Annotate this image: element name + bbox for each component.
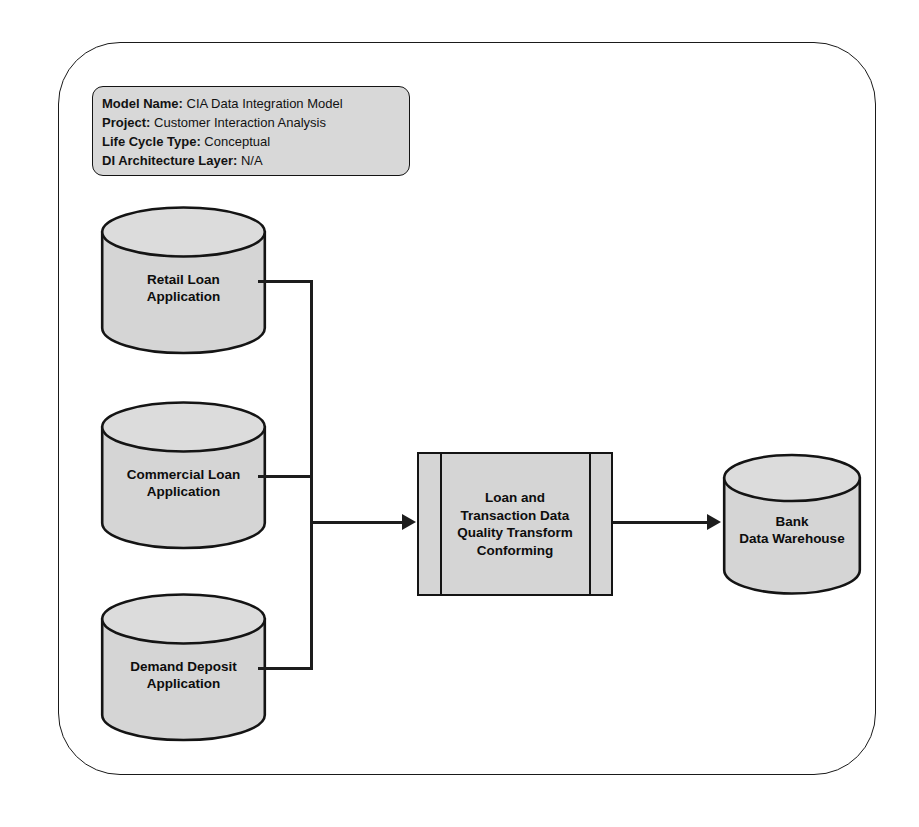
- datastore-commercial-loan-application[interactable]: Commercial Loan Application: [100, 400, 267, 550]
- connector-retail-loan-stub: [258, 280, 313, 283]
- connector-bus-to-transform: [310, 521, 404, 524]
- metadata-row-project: Project: Customer Interaction Analysis: [102, 113, 409, 132]
- metadata-row-di-architecture-layer: DI Architecture Layer: N/A: [102, 151, 409, 170]
- process-label-line2: Transaction Data: [443, 507, 587, 525]
- metadata-value-model-name: CIA Data Integration Model: [187, 96, 343, 111]
- metadata-row-life-cycle-type: Life Cycle Type: Conceptual: [102, 132, 409, 151]
- process-divider-right: [589, 454, 591, 594]
- metadata-row-model-name: Model Name: CIA Data Integration Model: [102, 94, 409, 113]
- cylinder-icon: [100, 592, 267, 742]
- process-label-line1: Loan and: [443, 489, 587, 507]
- metadata-label-model-name: Model Name:: [102, 96, 183, 111]
- process-label-line4: Conforming: [443, 542, 587, 560]
- metadata-value-di-architecture-layer: N/A: [241, 153, 263, 168]
- metadata-value-life-cycle-type: Conceptual: [204, 134, 270, 149]
- diagram-canvas: Model Name: CIA Data Integration Model P…: [0, 0, 919, 827]
- datastore-demand-deposit-application[interactable]: Demand Deposit Application: [100, 592, 267, 742]
- connector-demand-deposit-stub: [258, 667, 313, 670]
- cylinder-icon: [100, 400, 267, 550]
- process-loan-transaction-data-quality-transform[interactable]: Loan and Transaction Data Quality Transf…: [417, 452, 613, 596]
- connector-transform-to-warehouse: [613, 521, 709, 524]
- datastore-retail-loan-application[interactable]: Retail Loan Application: [100, 205, 267, 355]
- arrowhead-into-warehouse: [707, 514, 721, 530]
- metadata-label-di-architecture-layer: DI Architecture Layer:: [102, 153, 237, 168]
- metadata-label-life-cycle-type: Life Cycle Type:: [102, 134, 201, 149]
- connector-commercial-loan-stub: [258, 475, 313, 478]
- metadata-label-project: Project:: [102, 115, 150, 130]
- process-label-line3: Quality Transform: [443, 524, 587, 542]
- metadata-value-project: Customer Interaction Analysis: [154, 115, 326, 130]
- process-label: Loan and Transaction Data Quality Transf…: [443, 489, 587, 559]
- cylinder-icon: [722, 453, 862, 595]
- arrowhead-into-transform: [402, 514, 416, 530]
- cylinder-icon: [100, 205, 267, 355]
- datastore-bank-data-warehouse[interactable]: Bank Data Warehouse: [722, 453, 862, 595]
- connector-source-bus: [310, 280, 313, 670]
- model-metadata-box: Model Name: CIA Data Integration Model P…: [92, 86, 410, 176]
- process-divider-left: [440, 454, 442, 594]
